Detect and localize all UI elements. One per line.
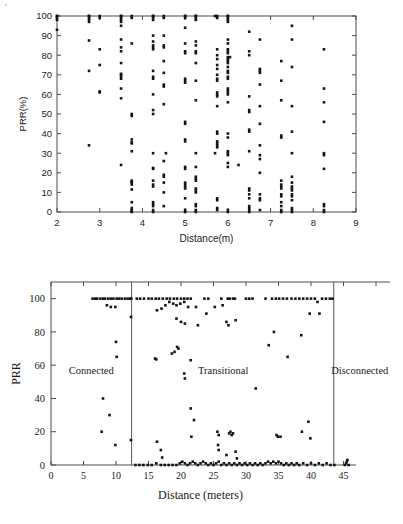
data-point (189, 407, 192, 410)
data-point (215, 462, 218, 465)
data-point (262, 464, 265, 467)
data-point (171, 464, 174, 467)
data-point (195, 152, 198, 155)
data-point (280, 462, 283, 465)
data-point (195, 306, 198, 309)
data-point (147, 297, 150, 300)
data-point (195, 79, 198, 82)
data-point (220, 464, 223, 467)
data-point (130, 316, 133, 319)
data-point (318, 462, 321, 465)
data-point (347, 464, 350, 467)
data-point (248, 50, 251, 53)
data-point (162, 160, 165, 163)
data-point (175, 317, 178, 320)
data-point (98, 91, 101, 94)
data-point (184, 168, 187, 171)
x-tick-label: 3 (97, 217, 102, 228)
data-point (186, 297, 189, 300)
data-point (202, 460, 205, 463)
data-point (329, 297, 332, 300)
data-point (225, 464, 228, 467)
data-point (227, 154, 230, 157)
data-point (288, 464, 291, 467)
data-point (175, 304, 178, 307)
x-tick-label: 10 (111, 470, 121, 481)
data-point (99, 297, 102, 300)
data-point (197, 464, 200, 467)
data-point (214, 306, 217, 309)
data-point (291, 211, 294, 214)
data-point (98, 17, 101, 20)
y-tick-label: 60 (35, 360, 46, 371)
data-point (227, 132, 230, 135)
data-point (216, 17, 219, 20)
data-point (295, 462, 298, 465)
data-point (152, 179, 155, 182)
x-tick-label: 20 (176, 470, 186, 481)
data-point (216, 58, 219, 61)
top-chart-figure: 234567890102030405060708090100Distance(m… (0, 0, 403, 262)
data-point (165, 152, 168, 155)
data-point (177, 347, 180, 350)
data-point (184, 17, 187, 20)
bottom-plot-group: 051015202530354045020406080100ConnectedT… (9, 282, 390, 502)
data-point (197, 324, 200, 327)
data-point (291, 181, 294, 184)
data-point (130, 211, 133, 214)
data-point (248, 189, 251, 192)
data-point (152, 40, 155, 43)
data-point (162, 17, 165, 20)
data-point (234, 297, 237, 300)
data-point (184, 197, 187, 200)
data-point (120, 50, 123, 53)
data-point (225, 321, 228, 324)
data-point (183, 372, 186, 375)
y-tick-label: 40 (41, 128, 52, 139)
data-point (291, 66, 294, 69)
data-point (118, 297, 121, 300)
data-point (115, 297, 118, 300)
data-point (329, 464, 332, 467)
data-point (220, 297, 223, 300)
data-point (195, 179, 198, 182)
y-tick-label: 0 (40, 460, 45, 471)
data-point (291, 175, 294, 178)
data-point (259, 72, 262, 75)
data-point (318, 312, 321, 315)
data-point (189, 462, 192, 465)
data-point (227, 77, 230, 80)
data-point (259, 123, 262, 126)
data-point (199, 462, 202, 465)
data-points (56, 15, 326, 214)
y-tick-label: 80 (41, 50, 52, 61)
data-point (173, 351, 176, 354)
data-point (227, 136, 230, 139)
data-point (323, 168, 326, 171)
data-point (264, 297, 267, 300)
data-point (227, 324, 230, 327)
data-point (195, 99, 198, 102)
data-point (184, 377, 187, 380)
data-point (223, 462, 226, 465)
data-point (259, 172, 262, 175)
data-point (195, 211, 198, 214)
data-point (217, 460, 220, 463)
data-point (227, 101, 230, 104)
data-point (245, 297, 248, 300)
data-point (169, 297, 172, 300)
x-tick-label: 4 (140, 217, 145, 228)
data-point (248, 150, 251, 153)
data-point (259, 105, 262, 108)
data-point (108, 414, 111, 417)
data-point (184, 52, 187, 55)
data-point (88, 21, 91, 24)
data-point (323, 154, 326, 157)
data-point (234, 450, 237, 453)
data-point (216, 48, 219, 51)
y-tick-label: 20 (41, 167, 52, 178)
data-point (152, 19, 155, 22)
data-point (158, 297, 161, 300)
data-point (152, 185, 155, 188)
data-point (134, 464, 137, 467)
